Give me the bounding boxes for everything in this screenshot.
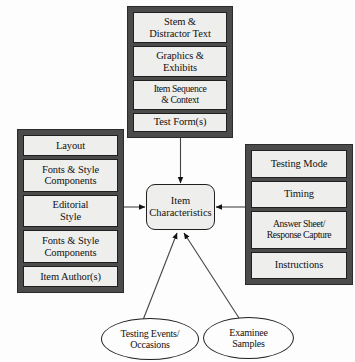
- cell-test-forms: Test Form(s): [133, 113, 227, 132]
- cell-line-1: Instructions: [275, 259, 323, 271]
- cell-item-authors: Item Author(s): [23, 266, 118, 287]
- presentation-group: Layout Fonts & Style Components Editoria…: [17, 129, 124, 293]
- cell-line-2: Exhibits: [163, 62, 197, 73]
- cell-line-1: Test Form(s): [154, 116, 207, 128]
- center-line-2: Characteristics: [149, 207, 211, 218]
- cell-answer-sheet-response-capture: Answer Sheet/ Response Capture: [251, 211, 347, 248]
- cell-line-2: Distractor Text: [149, 28, 210, 39]
- arrow-examinee-samples-to-center: [184, 233, 239, 318]
- cell-testing-mode: Testing Mode: [251, 150, 347, 178]
- center-line-1: Item: [171, 195, 190, 206]
- cell-line-1: Item Author(s): [40, 271, 101, 283]
- cell-fonts-style-components-2: Fonts & Style Components: [23, 230, 118, 263]
- cell-layout: Layout: [23, 135, 118, 156]
- administration-group: Testing Mode Timing Answer Sheet/ Respon…: [245, 144, 353, 285]
- cell-item-sequence-context: Item Sequence & Context: [133, 80, 227, 109]
- cell-line-1: Testing Mode: [271, 158, 328, 170]
- testing-events-occasions-ellipse: Testing Events/ Occasions: [101, 318, 199, 360]
- cell-line-2: Style: [60, 211, 81, 222]
- item-content-group: Stem & Distractor Text Graphics & Exhibi…: [127, 6, 233, 138]
- ellipse-line-2: Occasions: [130, 339, 169, 350]
- cell-stem-distractor-text: Stem & Distractor Text: [133, 12, 227, 43]
- cell-line-1: Answer Sheet/: [273, 218, 325, 229]
- cell-line-2: Response Capture: [267, 229, 332, 240]
- cell-line-2: Components: [44, 247, 96, 258]
- cell-instructions: Instructions: [251, 252, 347, 280]
- cell-line-2: Components: [44, 175, 96, 186]
- cell-line-1: Fonts & Style: [42, 235, 99, 246]
- cell-line-1: Item Sequence: [154, 83, 207, 94]
- diagram-canvas: Stem & Distractor Text Graphics & Exhibi…: [0, 0, 355, 362]
- cell-fonts-style-components-1: Fonts & Style Components: [23, 159, 118, 192]
- ellipse-line-1: Examinee: [229, 327, 267, 338]
- cell-editorial-style: Editorial Style: [23, 195, 118, 228]
- cell-line-1: Layout: [56, 140, 85, 152]
- arrow-testing-events-to-center: [143, 233, 177, 320]
- cell-timing: Timing: [251, 181, 347, 209]
- ellipse-line-2: Samples: [232, 338, 265, 349]
- cell-line-1: Editorial: [53, 199, 89, 210]
- cell-graphics-exhibits: Graphics & Exhibits: [133, 46, 227, 77]
- item-characteristics-node: Item Characteristics: [146, 184, 215, 230]
- examinee-samples-ellipse: Examinee Samples: [203, 317, 294, 359]
- cell-line-1: Graphics &: [156, 50, 204, 61]
- cell-line-2: & Context: [161, 94, 198, 105]
- cell-line-1: Stem &: [164, 16, 196, 27]
- cell-line-1: Fonts & Style: [42, 164, 99, 175]
- ellipse-line-1: Testing Events/: [121, 328, 180, 339]
- cell-line-1: Timing: [284, 188, 314, 200]
